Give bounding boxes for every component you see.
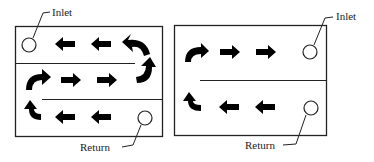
- right-inlet-leader: [314, 17, 333, 45]
- left-inlet-label: Inlet: [52, 7, 72, 18]
- arrow-left-icon: [91, 37, 111, 51]
- flow-diagram: [0, 0, 374, 162]
- arrow-right-icon: [256, 45, 276, 59]
- arrow-left-icon: [55, 110, 75, 124]
- curved-arrow-icon: [136, 57, 156, 83]
- curved-arrow-icon: [183, 92, 201, 111]
- two-pass-diagram: [175, 17, 334, 145]
- right-return-leader: [283, 115, 306, 145]
- left-inlet-leader: [33, 12, 50, 38]
- arrow-left-icon: [255, 100, 275, 114]
- left-inlet-circle: [22, 38, 36, 52]
- arrow-right-icon: [220, 45, 240, 59]
- arrow-left-icon: [91, 110, 111, 124]
- arrow-right-icon: [61, 73, 81, 87]
- curved-arrow-icon: [26, 69, 51, 90]
- arrow-left-icon: [55, 37, 75, 51]
- left-return-circle: [138, 111, 152, 125]
- arrow-left-icon: [219, 100, 239, 114]
- right-return-label: Return: [245, 140, 275, 151]
- left-return-label: Return: [80, 142, 110, 153]
- right-return-circle: [304, 101, 318, 115]
- curved-arrow-icon: [122, 34, 150, 56]
- right-inlet-circle: [303, 45, 317, 59]
- arrow-right-icon: [97, 73, 117, 87]
- three-pass-diagram: [15, 12, 163, 147]
- curved-arrow-icon: [185, 43, 209, 62]
- right-inlet-label: Inlet: [336, 11, 356, 22]
- curved-arrow-icon: [24, 100, 41, 120]
